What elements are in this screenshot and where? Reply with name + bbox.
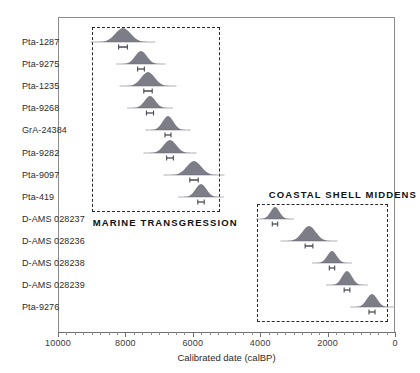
y-axis-label-d-ams-028239: D-AMS 028239 — [22, 280, 85, 290]
x-minor-tick — [361, 332, 362, 335]
date-marker-pta-1287 — [87, 27, 160, 53]
x-minor-tick — [201, 332, 202, 335]
y-axis-label-pta-419: Pta-419 — [22, 192, 54, 202]
date-marker-d-ams-028239 — [322, 270, 372, 296]
x-tick-8000 — [125, 332, 126, 337]
x-tick-label-4000: 4000 — [250, 338, 271, 348]
x-minor-tick — [109, 332, 110, 335]
x-minor-tick — [66, 332, 67, 335]
y-axis-label-gra-24384: GrA-24384 — [22, 125, 67, 135]
x-tick-label-0: 0 — [392, 338, 397, 348]
x-tick-4000 — [260, 332, 261, 337]
x-tick-label-10000: 10000 — [45, 338, 71, 348]
y-axis-label-pta-9275: Pta-9275 — [22, 59, 59, 69]
x-minor-tick — [100, 332, 101, 335]
y-axis-label-pta-9097: Pta-9097 — [22, 170, 59, 180]
x-tick-2000 — [328, 332, 329, 337]
group-title-marine-transgression: MARINE TRANSGRESSION — [93, 217, 238, 228]
x-minor-tick — [243, 332, 244, 335]
x-tick-0 — [395, 332, 396, 337]
y-axis-label-pta-9282: Pta-9282 — [22, 148, 59, 158]
x-minor-tick — [184, 332, 185, 335]
y-axis-label-pta-9276: Pta-9276 — [22, 302, 59, 312]
x-minor-tick — [227, 332, 228, 335]
x-minor-tick — [370, 332, 371, 335]
x-minor-tick — [210, 332, 211, 335]
x-minor-tick — [134, 332, 135, 335]
x-minor-tick — [235, 332, 236, 335]
x-tick-10000 — [58, 332, 59, 337]
x-minor-tick — [218, 332, 219, 335]
x-minor-tick — [319, 332, 320, 335]
x-minor-tick — [92, 332, 93, 335]
x-minor-tick — [176, 332, 177, 335]
x-minor-tick — [159, 332, 160, 335]
x-minor-tick — [269, 332, 270, 335]
x-tick-label-2000: 2000 — [317, 338, 338, 348]
y-axis-label-d-ams-028237: D-AMS 028237 — [22, 214, 85, 224]
date-marker-pta-419 — [174, 183, 228, 208]
date-marker-pta-1235 — [115, 71, 180, 97]
y-axis-label-pta-1235: Pta-1235 — [22, 81, 59, 91]
y-axis-label-d-ams-028236: D-AMS 028236 — [22, 236, 85, 246]
x-tick-label-8000: 8000 — [115, 338, 136, 348]
x-minor-tick — [83, 332, 84, 335]
date-marker-pta-9097 — [160, 160, 229, 186]
x-tick-label-6000: 6000 — [182, 338, 203, 348]
y-axis-label-d-ams-028238: D-AMS 028238 — [22, 258, 85, 268]
x-minor-tick — [353, 332, 354, 335]
y-axis-label-pta-1287: Pta-1287 — [22, 37, 59, 47]
group-title-coastal-shell-middens: COASTAL SHELL MIDDENS — [269, 189, 417, 200]
x-axis-title: Calibrated date (calBP) — [58, 352, 395, 363]
radiocarbon-date-chart: Pta-1287Pta-9275Pta-1235Pta-9268GrA-2438… — [0, 0, 420, 373]
date-marker-gra-24384 — [141, 115, 195, 141]
x-minor-tick — [378, 332, 379, 335]
x-minor-tick — [285, 332, 286, 335]
x-minor-tick — [387, 332, 388, 335]
y-axis-label-pta-9268: Pta-9268 — [22, 103, 59, 113]
x-minor-tick — [168, 332, 169, 335]
x-minor-tick — [302, 332, 303, 335]
date-marker-pta-9276 — [346, 293, 398, 318]
x-minor-tick — [344, 332, 345, 335]
x-minor-tick — [151, 332, 152, 335]
x-minor-tick — [117, 332, 118, 335]
x-minor-tick — [252, 332, 253, 335]
x-minor-tick — [294, 332, 295, 335]
x-minor-tick — [336, 332, 337, 335]
x-tick-6000 — [193, 332, 194, 337]
x-minor-tick — [75, 332, 76, 335]
x-minor-tick — [311, 332, 312, 335]
date-marker-d-ams-028236 — [276, 225, 341, 252]
x-minor-tick — [277, 332, 278, 335]
x-minor-tick — [142, 332, 143, 335]
